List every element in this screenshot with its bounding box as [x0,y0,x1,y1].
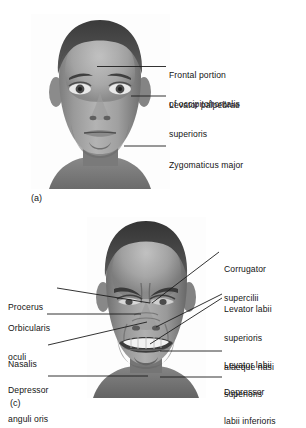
label-line: Depressor [8,386,49,396]
label-depressor-anguli-oris: Depressor anguli oris [8,366,49,428]
grimacing-face-photograph [87,217,206,398]
panel-c-caption: (c) [10,398,21,408]
panel-a-caption: (a) [31,193,42,203]
label-line: Orbicularis [8,324,50,334]
label-line: Levator palpebrae [169,101,240,111]
label-depressor-labii-inferioris: Depressor labii inferioris [224,368,276,428]
label-line: superioris [169,130,240,140]
label-line: anguli oris [8,415,49,425]
label-line: Depressor [224,388,276,398]
label-line: labii inferioris [224,417,276,427]
relaxed-face-photograph [31,14,170,189]
label-line: Zygomaticus major [169,161,243,171]
label-zygomaticus-major: Zygomaticus major [169,141,243,190]
label-line: Frontal portion [169,71,240,81]
label-line: Corrugator [224,265,266,275]
label-line: Levator labii [224,305,274,315]
